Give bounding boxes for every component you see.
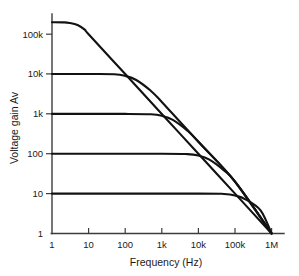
gain-bandwidth-chart: 100k 10k 1k 100 10 1 1 10 100 1k 10k 100… (0, 0, 299, 276)
x-tick-label-100k: 100k (225, 239, 246, 250)
x-tick-label-10k: 10k (191, 239, 207, 250)
x-tick-label-10: 10 (83, 239, 94, 250)
y-axis-title: Voltage gain Av (8, 91, 20, 164)
series-curve-4: Closed-loop gain 10 (52, 194, 272, 234)
chart-plot-area: 100k 10k 1k 100 10 1 1 10 100 1k 10k 100… (0, 0, 299, 276)
y-tick-label-1: 1 (38, 228, 43, 239)
series-curve-0: Open-loop gain (52, 22, 272, 233)
x-axis-tick-labels: 1 10 100 1k 10k 100k 1M (49, 239, 278, 250)
y-tick-label-1k: 1k (33, 108, 43, 119)
x-axis-ticks (89, 228, 272, 234)
x-tick-label-1k: 1k (157, 239, 167, 250)
chart-series-group: Open-loop gainClosed-loop gain 10kClosed… (52, 22, 272, 233)
y-tick-label-100: 100 (27, 148, 43, 159)
x-tick-label-100: 100 (117, 239, 133, 250)
series-curve-2: Closed-loop gain 1k (52, 114, 272, 234)
y-tick-label-10: 10 (32, 188, 43, 199)
y-axis-tick-labels: 100k 10k 1k 100 10 1 (22, 29, 43, 239)
x-tick-label-1M: 1M (265, 239, 278, 250)
x-tick-label-1: 1 (49, 239, 54, 250)
y-tick-label-100k: 100k (22, 29, 43, 40)
x-axis-title: Frequency (Hz) (130, 256, 202, 268)
y-tick-label-10k: 10k (28, 68, 44, 79)
